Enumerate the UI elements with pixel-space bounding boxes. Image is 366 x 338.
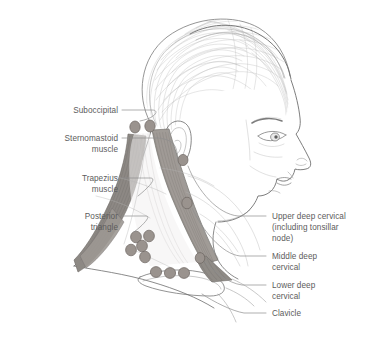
label-lower-deep-cervical: Lower deep cervical bbox=[272, 281, 316, 301]
lymph-node-group-supraclavicular bbox=[150, 267, 189, 279]
leader-upper-deep-cervical bbox=[188, 166, 266, 216]
label-text: Sternomastoid bbox=[65, 134, 119, 143]
label-text: muscle bbox=[92, 145, 119, 154]
lymph-node bbox=[178, 154, 188, 165]
label-text: Lower deep bbox=[272, 281, 316, 290]
label-text: Middle deep bbox=[272, 252, 318, 261]
lymph-node bbox=[150, 267, 161, 278]
hair bbox=[142, 16, 291, 141]
lymph-node-upper-deep-cervical bbox=[178, 154, 188, 165]
lymph-node bbox=[145, 120, 155, 132]
lymph-node bbox=[182, 197, 192, 209]
label-text: cervical bbox=[272, 292, 300, 301]
label-upper-deep-cervical: Upper deep cervical (including tonsillar… bbox=[272, 212, 346, 243]
label-text: Upper deep cervical bbox=[272, 212, 346, 221]
label-text: node) bbox=[272, 234, 293, 243]
label-text: cervical bbox=[272, 263, 300, 272]
face-profile bbox=[218, 80, 311, 222]
lymph-node bbox=[178, 268, 189, 279]
lymph-node-middle-deep-cervical bbox=[182, 197, 192, 209]
label-text: Suboccipital bbox=[73, 106, 118, 115]
lymph-node bbox=[140, 251, 151, 263]
lymph-node bbox=[144, 230, 155, 242]
lymph-node bbox=[130, 121, 140, 133]
lymph-node bbox=[126, 244, 137, 256]
label-suboccipital: Suboccipital bbox=[73, 106, 118, 115]
label-text: muscle bbox=[92, 185, 119, 194]
lymph-node bbox=[137, 240, 148, 252]
anatomical-illustration-lymph-nodes-head-neck: Suboccipital Sternomastoid muscle Trapez… bbox=[0, 0, 366, 338]
lymph-node-group-suboccipital bbox=[130, 120, 155, 133]
label-middle-deep-cervical: Middle deep cervical bbox=[272, 252, 318, 272]
lymph-node bbox=[195, 253, 205, 264]
label-sternomastoid-muscle: Sternomastoid muscle bbox=[65, 134, 119, 154]
label-trapezius-muscle: Trapezius muscle bbox=[82, 174, 119, 194]
label-text: triangle bbox=[91, 223, 119, 232]
leader-clavicle bbox=[202, 294, 266, 313]
label-clavicle: Clavicle bbox=[272, 309, 301, 318]
label-text: (including tonsillar bbox=[272, 223, 339, 232]
label-text: Clavicle bbox=[272, 309, 301, 318]
label-text: Posterior bbox=[85, 212, 118, 221]
label-text: Trapezius bbox=[82, 174, 118, 183]
lymph-node bbox=[164, 268, 175, 279]
lymph-node-lower-deep-cervical bbox=[195, 253, 205, 264]
